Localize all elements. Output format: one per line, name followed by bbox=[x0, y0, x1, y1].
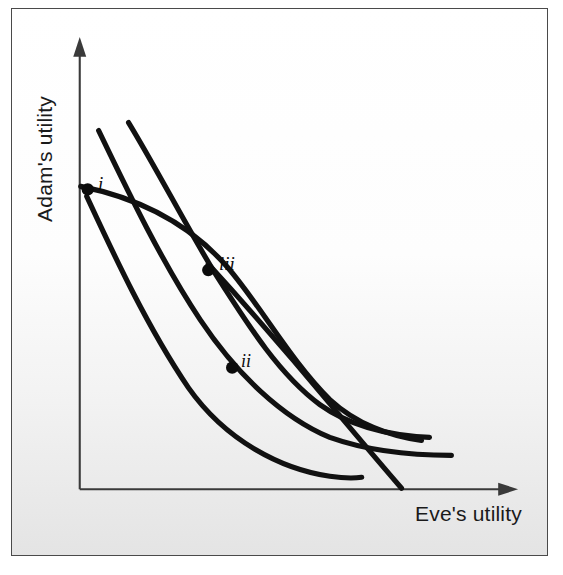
curve-contract-steep bbox=[208, 264, 401, 488]
point-marker-i bbox=[82, 183, 94, 195]
plot-canvas bbox=[12, 9, 547, 555]
figure-root: Adam's utility Eve's utility i ii iii bbox=[0, 0, 563, 575]
point-label-iii: iii bbox=[219, 253, 235, 275]
curve-indifference-middle bbox=[99, 131, 452, 456]
y-axis-label: Adam's utility bbox=[33, 74, 57, 244]
x-axis-arrow-icon bbox=[498, 483, 518, 496]
figure-frame: Adam's utility Eve's utility i ii iii bbox=[11, 8, 548, 556]
point-label-i: i bbox=[98, 173, 103, 195]
point-marker-iii bbox=[202, 264, 214, 276]
point-label-ii: ii bbox=[241, 351, 251, 372]
point-marker-ii bbox=[226, 362, 238, 374]
x-axis-label: Eve's utility bbox=[415, 502, 522, 526]
y-axis-arrow-icon bbox=[73, 37, 86, 57]
